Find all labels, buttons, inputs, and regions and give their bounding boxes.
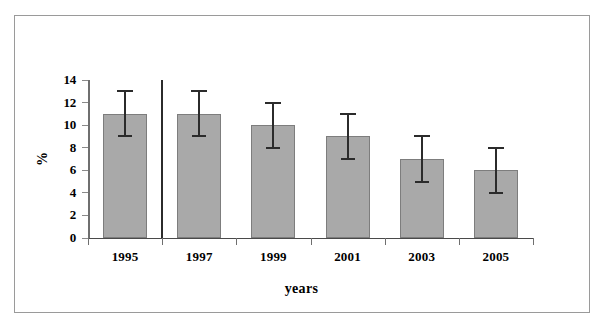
y-axis-tick (82, 80, 88, 81)
error-bar-cap-upper (265, 102, 281, 104)
y-axis-tick-label: 4 (48, 186, 76, 199)
error-bar-cap-lower (489, 192, 503, 194)
x-axis-tick (311, 238, 312, 245)
x-axis-tick-label: 2003 (387, 249, 457, 265)
error-bar-cap-upper (117, 90, 133, 92)
y-axis-tick (82, 125, 88, 126)
error-bar-cap-lower (192, 135, 206, 137)
y-axis-tick-label: 0 (48, 231, 76, 244)
error-bar-stem (272, 103, 274, 148)
y-axis-tick (82, 192, 88, 193)
x-axis-tick (385, 238, 386, 245)
y-axis-tick-label: 8 (48, 141, 76, 154)
error-bar-cap-lower (266, 147, 280, 149)
x-axis-tick-label: 1999 (238, 249, 308, 265)
x-axis-tick (459, 238, 460, 245)
vertical-divider-annotation (161, 80, 163, 238)
error-bar-stem (124, 91, 126, 136)
y-axis-tick (82, 170, 88, 171)
x-axis-tick (88, 238, 89, 245)
y-axis-tick-label: 10 (48, 118, 76, 131)
x-axis-tick (162, 238, 163, 245)
y-axis-tick (82, 215, 88, 216)
x-axis-tick-label: 1995 (90, 249, 160, 265)
y-axis-line (88, 80, 90, 239)
error-bar-stem (198, 91, 200, 136)
error-bar-cap-lower (415, 181, 429, 183)
y-axis-tick-label: 14 (48, 73, 76, 86)
error-bar-cap-upper (488, 147, 504, 149)
error-bar-stem (495, 148, 497, 193)
y-axis-tick-label: 6 (48, 163, 76, 176)
y-axis-tick-label: 2 (48, 208, 76, 221)
figure: % 02468101214 199519971999200120032005 y… (0, 0, 603, 327)
x-axis-tick-label: 2005 (461, 249, 531, 265)
y-axis-tick (82, 102, 88, 103)
x-axis-tick (236, 238, 237, 245)
x-axis-tick-label: 2001 (313, 249, 383, 265)
error-bar-cap-upper (191, 90, 207, 92)
x-axis-tick-label: 1997 (164, 249, 234, 265)
x-axis-tick (533, 238, 534, 245)
y-axis-tick-label: 12 (48, 96, 76, 109)
error-bar-cap-lower (118, 135, 132, 137)
error-bar-stem (347, 114, 349, 159)
error-bar-stem (421, 136, 423, 181)
y-axis-tick (82, 147, 88, 148)
x-axis-label: years (0, 281, 603, 297)
error-bar-cap-upper (414, 135, 430, 137)
error-bar-cap-upper (340, 113, 356, 115)
error-bar-cap-lower (341, 158, 355, 160)
figure-border (14, 15, 590, 313)
